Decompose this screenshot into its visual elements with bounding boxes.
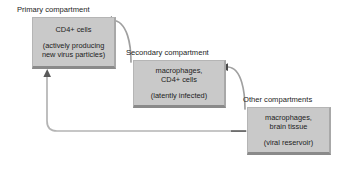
group-label-primary: Primary compartment — [17, 5, 90, 14]
diagram-canvas: Primary compartment CD4+ cells (actively… — [0, 0, 339, 171]
primary-state-line2: new virus particles) — [42, 50, 105, 59]
secondary-state: (latently infected) — [151, 91, 207, 100]
compartment-box-primary[interactable]: CD4+ cells (actively producing new virus… — [32, 17, 116, 69]
other-cell-types-line1: macrophages, — [265, 113, 312, 122]
primary-cell-types: CD4+ cells — [56, 25, 92, 34]
compartment-box-other[interactable]: macrophages, brain tissue (viral reservo… — [247, 107, 331, 155]
other-state: (viral reservoir) — [264, 138, 313, 147]
secondary-cell-types-line2: CD4+ cells — [161, 75, 197, 84]
group-label-secondary: Secondary compartment — [126, 48, 209, 57]
primary-state-line1: (actively producing — [43, 41, 105, 50]
group-label-other: Other compartments — [243, 95, 312, 104]
compartment-box-secondary[interactable]: macrophages, CD4+ cells (latently infect… — [133, 60, 226, 108]
secondary-cell-types-line1: macrophages, — [156, 66, 203, 75]
other-cell-types-line2: brain tissue — [270, 122, 308, 131]
